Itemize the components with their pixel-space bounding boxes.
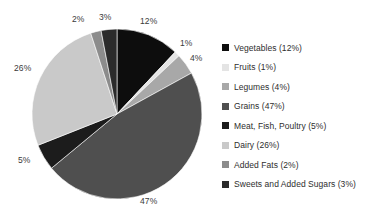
legend-item-label: Fruits (1%)	[234, 62, 276, 72]
legend-item[interactable]: Dairy (26%)	[222, 136, 387, 156]
legend-item[interactable]: Added Fats (2%)	[222, 155, 387, 175]
pie-slice-label: 12%	[140, 16, 157, 26]
legend-swatch-icon	[222, 64, 229, 71]
legend-item-label: Legumes (4%)	[234, 82, 290, 92]
legend-item[interactable]: Sweets and Added Sugars (3%)	[222, 175, 387, 195]
pie-slice-label: 1%	[180, 38, 193, 48]
legend-item[interactable]: Fruits (1%)	[222, 58, 387, 78]
legend-item[interactable]: Meat, Fish, Poultry (5%)	[222, 116, 387, 136]
pie-slice-group	[32, 29, 202, 199]
pie-chart-figure: 12%1%4%47%5%26%2%3% Vegetables (12%)Frui…	[0, 0, 387, 221]
legend-swatch-icon	[222, 122, 229, 129]
legend-item[interactable]: Legumes (4%)	[222, 77, 387, 97]
legend-item-label: Dairy (26%)	[234, 140, 279, 150]
pie-slice-label: 4%	[190, 53, 203, 63]
legend-swatch-icon	[222, 161, 229, 168]
pie-slice-label: 26%	[14, 63, 31, 73]
legend-item[interactable]: Vegetables (12%)	[222, 38, 387, 58]
chart-legend: Vegetables (12%)Fruits (1%)Legumes (4%)G…	[222, 38, 387, 194]
legend-item-label: Sweets and Added Sugars (3%)	[234, 179, 356, 189]
legend-item-label: Vegetables (12%)	[234, 43, 302, 53]
legend-item-label: Added Fats (2%)	[234, 160, 299, 170]
legend-swatch-icon	[222, 181, 229, 188]
legend-swatch-icon	[222, 103, 229, 110]
legend-swatch-icon	[222, 142, 229, 149]
pie-plot-area: 12%1%4%47%5%26%2%3%	[0, 0, 215, 221]
pie-slice-label: 3%	[99, 12, 112, 22]
pie-svg	[0, 0, 215, 221]
legend-item-label: Grains (47%)	[234, 101, 285, 111]
pie-slice-label: 47%	[140, 196, 157, 206]
legend-item[interactable]: Grains (47%)	[222, 97, 387, 117]
legend-swatch-icon	[222, 83, 229, 90]
pie-slice-label: 5%	[18, 155, 31, 165]
pie-slice-label: 2%	[72, 14, 85, 24]
legend-swatch-icon	[222, 44, 229, 51]
legend-item-label: Meat, Fish, Poultry (5%)	[234, 121, 326, 131]
